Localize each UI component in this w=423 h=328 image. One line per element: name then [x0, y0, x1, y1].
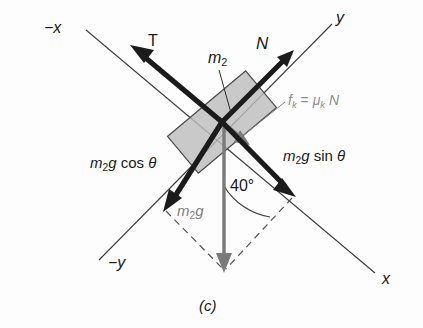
mg-sin-theta: θ: [337, 147, 345, 164]
angle-label: 40°: [230, 178, 254, 194]
axis-label-positive-x: x: [382, 271, 390, 287]
vector-label-friction: fk = μk N: [288, 93, 339, 109]
physics-free-body-diagram: −x y −y x T N m2 fk = μk N m2g cos θ m2g…: [0, 0, 423, 328]
block-label-base: m: [208, 49, 221, 66]
friction-N: N: [329, 92, 339, 108]
mg-cos-func: cos: [121, 154, 144, 171]
vector-label-normal-force: N: [256, 35, 268, 52]
mg-sin-g: g: [301, 147, 309, 164]
axis-label-negative-x: −x: [44, 20, 61, 36]
vector-label-mg-sin: m2g sin θ: [283, 148, 345, 166]
block-label-subscript: 2: [221, 56, 227, 68]
friction-equals-sign: =: [301, 92, 309, 108]
block-label-m2: m2: [208, 50, 227, 68]
vector-label-weight: m2g: [177, 203, 204, 221]
mg-cos-m: m: [90, 154, 103, 171]
figure-caption: (c): [199, 298, 217, 313]
axis-label-negative-y: −y: [108, 255, 125, 271]
vector-label-mg-cos: m2g cos θ: [90, 155, 156, 173]
dashed-guide-right: [226, 198, 292, 269]
weight-g: g: [195, 202, 203, 219]
axis-label-positive-y: y: [336, 10, 344, 26]
mg-sin-m: m: [283, 147, 296, 164]
weight-arrowhead: [216, 253, 232, 273]
weight-m: m: [177, 202, 190, 219]
vector-label-tension: T: [148, 33, 158, 49]
mg-sin-func: sin: [314, 147, 333, 164]
mg-cos-theta: θ: [148, 154, 156, 171]
mg-cos-g: g: [108, 154, 116, 171]
